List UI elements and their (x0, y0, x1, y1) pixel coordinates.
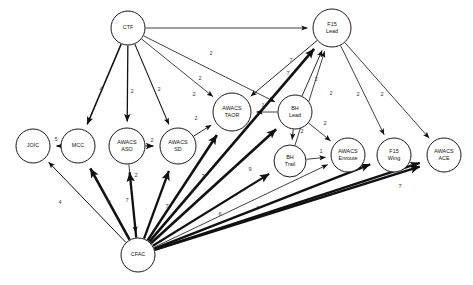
edge-bh-lead-to-bh-trail (292, 129, 293, 139)
node-label: CFAC (131, 251, 145, 257)
node-bh-lead[interactable]: BHLead (278, 95, 312, 129)
node-label: CTF (123, 24, 134, 30)
edge-bh-lead-to-awacs-enroute (309, 123, 331, 141)
node-label: BH (291, 105, 299, 111)
node-label: MCC (72, 142, 84, 148)
node-label: F15 (389, 148, 398, 154)
edge-weight-label: 7 (256, 205, 259, 211)
edge-f15-lead-to-f15-wing (341, 46, 385, 135)
node-label: AWACS (168, 139, 188, 145)
node-label: ASO (121, 146, 132, 152)
edge-bh-lead-to-f15-lead (302, 50, 322, 96)
node-awacs-ace[interactable]: AWACSACE (427, 138, 461, 172)
edge-weight-label: 4 (58, 199, 61, 205)
network-diagram: CTFF15LeadAWACSTAORBHLeadJOICMCCAWACSASO… (0, 0, 473, 285)
node-label: AWACS (434, 148, 454, 154)
edge-weight-label: 2 (300, 128, 303, 134)
edge-weight-label: 7 (165, 203, 168, 209)
node-label: Wing (388, 155, 400, 161)
edge-weight-label: 9 (107, 199, 110, 205)
edge-weight-label: 7 (125, 197, 128, 203)
edge-cfac-to-awacs-aso (130, 172, 137, 237)
edge-weight-label: 2 (380, 91, 383, 97)
node-awacs-taor[interactable]: AWACSTAOR (213, 93, 251, 131)
node-cfac[interactable]: CFAC (121, 238, 155, 272)
edge-ctf-to-mcc (87, 44, 121, 124)
node-label: Lead (289, 112, 301, 118)
edge-weight-label: 2 (130, 88, 133, 94)
node-label: TAOR (225, 112, 240, 118)
node-label: Lead (326, 28, 338, 34)
edge-weight-label: 5 (54, 136, 57, 142)
node-label: F15 (327, 21, 336, 27)
node-label: Trail (285, 161, 295, 167)
edge-weight-label: 7 (286, 70, 289, 76)
edge-bh-trail-to-awacs-enroute (306, 157, 325, 159)
edge-weight-label: 2 (157, 86, 160, 92)
node-label: AWACS (222, 105, 242, 111)
edge-weight-label: 7 (201, 173, 204, 179)
node-label: JOIC (27, 142, 39, 148)
edge-awacs-sd-to-awacs-taor (194, 125, 212, 136)
node-label: AWACS (117, 139, 137, 145)
edge-weight-label: 9 (248, 166, 251, 172)
edge-layer (49, 28, 430, 250)
edge-weight-label: 2 (314, 76, 317, 82)
node-bh-trail[interactable]: BHTrail (274, 145, 306, 177)
edge-weight-label: 4 (99, 86, 102, 92)
node-f15-wing[interactable]: F15Wing (377, 138, 411, 172)
edge-weight-label: 2 (134, 172, 137, 178)
node-label: ACE (438, 155, 449, 161)
node-label: BH (286, 154, 294, 160)
node-label: Enroute (339, 155, 358, 161)
node-layer: CTFF15LeadAWACSTAORBHLeadJOICMCCAWACSASO… (16, 9, 461, 272)
edge-weight-label: 7 (289, 57, 292, 63)
node-joic[interactable]: JOIC (16, 129, 50, 163)
edge-weight-label: 1 (261, 102, 264, 108)
edge-ctf-to-awacs-aso (127, 46, 128, 122)
node-awacs-aso[interactable]: AWACSASO (109, 128, 145, 164)
edge-weight-label: 2 (329, 90, 332, 96)
node-awacs-sd[interactable]: AWACSSD (160, 128, 196, 164)
edge-f15-lead-to-awacs-ace (345, 43, 429, 138)
diagram-canvas: CTFF15LeadAWACSTAORBHLeadJOICMCCAWACSASO… (0, 0, 473, 285)
edge-weight-label: 2 (150, 137, 153, 143)
node-f15-lead[interactable]: F15Lead (313, 9, 351, 47)
edge-weight-label: 2 (209, 50, 212, 56)
edge-weight-label: 7 (398, 183, 401, 189)
node-ctf[interactable]: CTF (111, 11, 145, 45)
edge-weight-label: 7 (191, 188, 194, 194)
node-label: SD (174, 146, 182, 152)
edge-weight-label: 6 (218, 211, 221, 217)
edge-weight-label: 1 (319, 148, 322, 154)
node-mcc[interactable]: MCC (61, 129, 95, 163)
edge-weight-label: 2 (323, 120, 326, 126)
edge-weight-label: 2 (356, 91, 359, 97)
edge-weight-label: 2 (198, 75, 201, 81)
node-label: AWACS (338, 148, 358, 154)
node-awacs-enroute[interactable]: AWACSEnroute (331, 138, 365, 172)
edge-ctf-to-awacs-sd (135, 44, 169, 124)
edge-weight-label: 7 (361, 181, 364, 187)
edge-weight-label: 2 (194, 115, 197, 121)
edge-weight-layer: 4222225222122212722497777796777 (54, 50, 401, 217)
edge-cfac-to-awacs-ace-2 (155, 167, 420, 250)
edge-f15-lead-to-awacs-taor (251, 41, 317, 97)
edge-ctf-to-awacs-taor (142, 39, 213, 97)
edge-weight-label: 2 (192, 91, 195, 97)
